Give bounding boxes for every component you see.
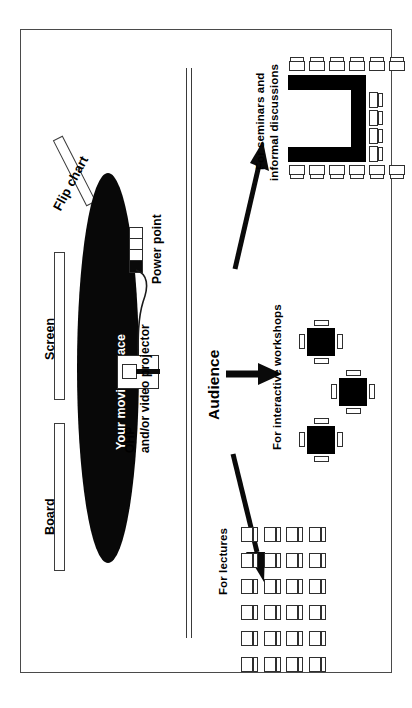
lecture-chair-back [298, 631, 303, 646]
lecture-chair [264, 553, 281, 568]
seminar-chair [329, 165, 345, 179]
lecture-chair-seat [264, 605, 276, 620]
lecture-chair [241, 553, 258, 568]
lecture-chair-seat [264, 631, 276, 646]
lecture-chair-seat [286, 631, 298, 646]
board-shape [54, 423, 65, 571]
workshop-chair [346, 408, 361, 414]
workshop-table [299, 418, 343, 462]
lecture-chair-seat [286, 553, 298, 568]
lecture-chair [286, 657, 303, 672]
lecture-chair-seat [241, 553, 253, 568]
seminar-chair [349, 57, 365, 71]
lecture-chair-back [321, 631, 326, 646]
workshop-chair [314, 358, 329, 364]
diagram-frame: Board Screen Flip chart Your moving spac… [20, 29, 392, 673]
lecture-chair-seat [286, 657, 298, 672]
lecture-chair-seat [264, 553, 276, 568]
power-point-outlet [129, 227, 143, 273]
seminar-chair [369, 165, 385, 179]
lecture-chair-seat [241, 527, 253, 542]
lecture-chair [241, 579, 258, 594]
lecture-chair-back [276, 657, 281, 672]
u-table-base [351, 75, 366, 162]
lecture-chair-back [253, 631, 258, 646]
projector-label-line1: OHP [123, 427, 137, 453]
workshop-chair [337, 432, 343, 447]
lecture-chair-seat [309, 527, 321, 542]
seminar-chair [309, 57, 325, 71]
workshop-table [299, 320, 343, 364]
lecture-chair [309, 657, 326, 672]
workshop-chair [337, 334, 343, 349]
workshop-table-top [339, 378, 367, 406]
seminar-chair [369, 146, 383, 162]
workshop-chair [299, 334, 305, 349]
seminar-chair [289, 165, 305, 179]
board-label: Board [43, 498, 57, 535]
lectures-label: For lectures [217, 528, 229, 595]
lecture-chair-seat [264, 527, 276, 542]
lecture-chair-back [253, 553, 258, 568]
lecture-chair [241, 527, 258, 542]
seminar-chair [289, 57, 305, 71]
lecture-chair-back [253, 579, 258, 594]
projector-lens [122, 364, 137, 379]
seminar-chair [309, 165, 325, 179]
lecture-chair-back [298, 657, 303, 672]
seminar-chair [389, 57, 405, 71]
lecture-chair-back [298, 605, 303, 620]
seminar-chair [329, 57, 345, 71]
lecture-chair [309, 527, 326, 542]
zone-divider-line-2 [191, 68, 192, 638]
lecture-chair [264, 579, 281, 594]
seminar-chair [369, 57, 385, 71]
lecture-chair-seat [309, 579, 321, 594]
lecture-chair-back [276, 527, 281, 542]
lecture-chair-seat [309, 553, 321, 568]
workshop-chair [369, 384, 375, 399]
workshop-chair [314, 418, 329, 424]
workshop-chair [314, 320, 329, 326]
seminar-chair [369, 128, 383, 144]
workshop-chair [299, 432, 305, 447]
lecture-chair [264, 527, 281, 542]
lecture-chair-back [276, 631, 281, 646]
lecture-chair-seat [264, 657, 276, 672]
lecture-chair-seat [241, 579, 253, 594]
seminar-chair [349, 165, 365, 179]
seminars-label-line1: For seminars and [254, 73, 266, 170]
lecture-chair-back [276, 553, 281, 568]
lecture-chair-seat [309, 605, 321, 620]
workshop-table-top [307, 426, 335, 454]
lecture-chair [264, 657, 281, 672]
lecture-chair-seat [241, 605, 253, 620]
screen-label: Screen [43, 318, 57, 360]
workshop-table-top [307, 328, 335, 356]
lecture-chair-seat [241, 631, 253, 646]
zone-divider-line-1 [186, 68, 187, 638]
lecture-chair-back [253, 657, 258, 672]
lecture-chair-back [321, 553, 326, 568]
seminars-label-line2: informal discussions [268, 64, 280, 181]
lecture-chair-seat [286, 527, 298, 542]
lecture-chair-seat [309, 657, 321, 672]
lecture-chair [241, 605, 258, 620]
projector-label-line2: and/or video projector [138, 324, 152, 453]
lecture-chair [309, 579, 326, 594]
audience-heading: Audience [205, 349, 223, 420]
lecture-chair [286, 605, 303, 620]
seminar-chair [369, 110, 383, 126]
lecture-chair-back [321, 657, 326, 672]
lecture-chair-back [298, 527, 303, 542]
lecture-chair-back [253, 605, 258, 620]
lecture-chair [241, 631, 258, 646]
lecture-chair-seat [309, 631, 321, 646]
lecture-chair [241, 657, 258, 672]
lecture-chair-back [321, 527, 326, 542]
lecture-chair-back [298, 553, 303, 568]
lecture-chair [286, 527, 303, 542]
workshop-chair [346, 370, 361, 376]
lecture-chair-back [253, 527, 258, 542]
lecture-chair-seat [264, 579, 276, 594]
